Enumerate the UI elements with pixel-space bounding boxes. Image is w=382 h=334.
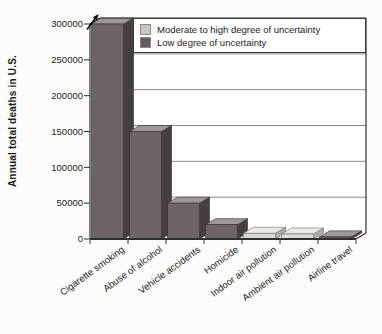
y-axis-title: Annual total deaths in U.S.	[7, 7, 21, 235]
legend-box: Moderate to high degree of uncertainty L…	[133, 18, 366, 53]
legend-item-low: Low degree of uncertainty	[140, 37, 359, 48]
y-tick-label: 250000	[51, 54, 83, 65]
legend-label-moderate-high: Moderate to high degree of uncertainty	[157, 24, 320, 35]
bar-cigarette-smoking	[92, 24, 124, 239]
risk-deaths-bar-chart-figure: 050000100000150000200000250000300000Ciga…	[0, 0, 382, 334]
y-tick-label: 300000	[51, 18, 83, 29]
legend-swatch-low-icon	[140, 37, 151, 48]
legend-item-moderate-high: Moderate to high degree of uncertainty	[140, 24, 359, 35]
y-tick-label: 0	[78, 233, 83, 244]
y-tick-label: 200000	[51, 90, 83, 101]
legend-swatch-moderate-high-icon	[140, 24, 151, 35]
x-category-label-indoor-air-pollution: Indoor air pollution	[208, 244, 278, 299]
bar-vehicle-accidents	[168, 203, 200, 239]
y-tick-label: 100000	[51, 162, 83, 173]
bar-abuse-of-alcohol	[130, 132, 162, 240]
bar-homicide	[206, 225, 238, 239]
legend-label-low: Low degree of uncertainty	[157, 37, 266, 48]
y-tick-label: 50000	[57, 197, 83, 208]
x-category-label-cigarette-smoking: Cigarette smoking	[58, 244, 126, 298]
y-tick-label: 150000	[51, 126, 83, 137]
